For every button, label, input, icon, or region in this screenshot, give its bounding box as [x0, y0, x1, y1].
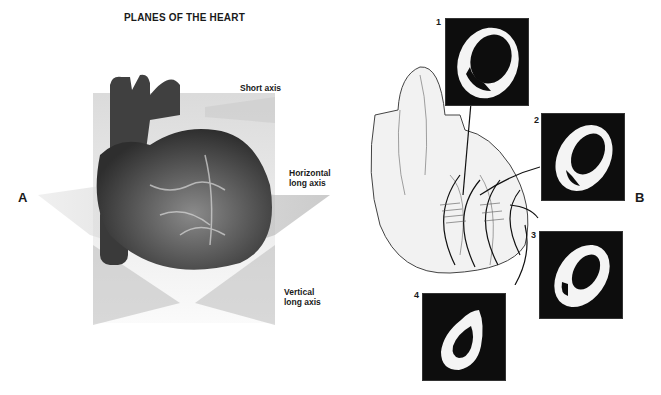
- horizontal-long-axis-label: Horizontal long axis: [289, 168, 331, 188]
- ventricle-ring-icon: [542, 114, 624, 200]
- panel-b-label: B: [635, 190, 644, 205]
- short-axis-label: Short axis: [240, 83, 281, 93]
- figure-title: PLANES OF THE HEART: [124, 12, 245, 23]
- mri-slice-2: [541, 113, 625, 201]
- slice-1-number: 1: [436, 17, 441, 27]
- vertical-label-line2: long axis: [284, 297, 321, 307]
- mri-slice-1: [445, 18, 529, 106]
- slice-2-number: 2: [534, 115, 539, 125]
- vertical-long-axis-label: Vertical long axis: [284, 287, 321, 307]
- panel-a-label: A: [18, 190, 27, 205]
- mri-slice-3: [539, 231, 623, 319]
- horizontal-label-line2: long axis: [289, 178, 331, 188]
- mri-slice-4: [422, 293, 506, 381]
- ventricle-ring-icon: [540, 232, 622, 318]
- horizontal-label-line1: Horizontal: [289, 168, 331, 178]
- ventricle-ring-icon: [423, 294, 505, 380]
- vertical-label-line1: Vertical: [284, 287, 321, 297]
- slice-4-number: 4: [414, 290, 419, 300]
- slice-3-number: 3: [531, 230, 536, 240]
- ventricle-ring-icon: [446, 19, 528, 105]
